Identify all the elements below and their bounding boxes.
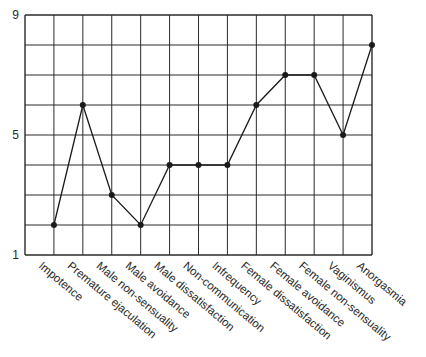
line-chart: 159 ImpotencePremature ejaculationMale n… <box>0 0 426 357</box>
data-point <box>196 162 202 168</box>
data-point <box>138 222 144 228</box>
y-tick-label: 9 <box>12 8 19 22</box>
data-point <box>369 42 375 48</box>
data-point <box>311 72 317 78</box>
data-point <box>340 132 346 138</box>
x-axis-labels: ImpotencePremature ejaculationMale non-s… <box>37 259 410 343</box>
chart-grid <box>25 15 372 255</box>
data-point <box>109 192 115 198</box>
data-point <box>80 102 86 108</box>
data-point <box>167 162 173 168</box>
y-tick-label: 1 <box>12 248 19 262</box>
data-point <box>51 222 57 228</box>
data-point <box>282 72 288 78</box>
y-axis-ticks: 159 <box>12 8 19 262</box>
data-point <box>253 102 259 108</box>
y-tick-label: 5 <box>12 128 19 142</box>
data-point <box>224 162 230 168</box>
